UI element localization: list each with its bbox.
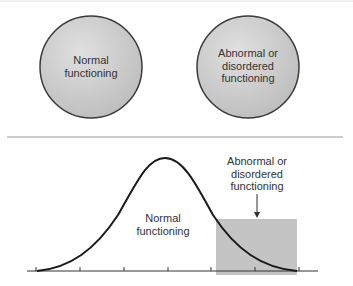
- label-line: Abnormal or: [218, 47, 278, 60]
- abnormal-circle-label: Abnormal or disordered functioning: [218, 47, 278, 85]
- label-line: functioning: [64, 67, 117, 80]
- label-line: functioning: [218, 72, 278, 85]
- label-line: Normal: [136, 212, 189, 225]
- normal-circle-label: Normal functioning: [64, 54, 117, 79]
- label-line: functioning: [136, 225, 189, 238]
- curve-normal-label: Normal functioning: [136, 212, 189, 237]
- arrow-head-icon: [254, 212, 260, 218]
- label-line: disordered: [218, 60, 278, 73]
- abnormal-region: [216, 219, 297, 275]
- region-abnormal-label: Abnormal or disordered functioning: [227, 155, 287, 193]
- label-line: disordered: [227, 168, 287, 181]
- label-line: Normal: [64, 54, 117, 67]
- label-line: Abnormal or: [227, 155, 287, 168]
- diagram-canvas: [0, 0, 353, 286]
- label-line: functioning: [227, 180, 287, 193]
